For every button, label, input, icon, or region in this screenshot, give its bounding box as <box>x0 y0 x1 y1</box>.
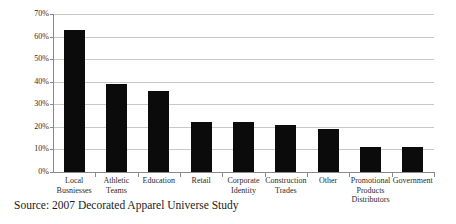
x-axis-line <box>53 172 435 173</box>
x-category-label: Government <box>392 176 434 186</box>
x-category-label: PromotionalProductsDistributors <box>349 176 391 205</box>
x-label-line: Construction <box>265 176 307 186</box>
x-category-label: AthleticTeams <box>95 176 137 195</box>
bar <box>64 30 85 172</box>
x-label-line: Education <box>138 176 180 186</box>
x-tick-mark <box>434 173 435 177</box>
bar-chart-figure: 0%10%20%30%40%50%60%70% LocalBusniessesA… <box>0 0 456 224</box>
x-tick-mark <box>307 173 308 177</box>
x-label-line: Retail <box>180 176 222 186</box>
y-tick-label: 50% <box>8 55 49 63</box>
x-category-label: LocalBusniesses <box>53 176 95 195</box>
x-label-line: Teams <box>95 186 137 196</box>
y-tick-label: 60% <box>8 33 49 41</box>
x-label-line: Trades <box>265 186 307 196</box>
y-tick-label: 30% <box>8 100 49 108</box>
y-tick-label: 0% <box>8 168 49 176</box>
x-category-label: Education <box>138 176 180 186</box>
y-tick-label: 20% <box>8 123 49 131</box>
y-tick-label: 40% <box>8 78 49 86</box>
x-category-label: CorporateIdentity <box>222 176 264 195</box>
x-label-line: Busniesses <box>53 186 95 196</box>
bar <box>148 91 169 172</box>
x-label-line: Government <box>392 176 434 186</box>
x-label-line: Corporate <box>222 176 264 186</box>
x-tick-mark <box>180 173 181 177</box>
bar <box>360 147 381 172</box>
x-label-line: Local <box>53 176 95 186</box>
x-category-label: Other <box>307 176 349 186</box>
x-tick-mark <box>95 173 96 177</box>
x-label-line: Products <box>349 186 391 196</box>
x-category-label: ConstructionTrades <box>265 176 307 195</box>
x-label-line: Identity <box>222 186 264 196</box>
x-label-line: Distributors <box>349 195 391 205</box>
x-label-line: Athletic <box>95 176 137 186</box>
bar <box>233 122 254 172</box>
y-tick-label: 70% <box>8 10 49 18</box>
bar <box>191 122 212 172</box>
x-category-label: Retail <box>180 176 222 186</box>
x-tick-mark <box>265 173 266 177</box>
x-label-line: Promotional <box>349 176 391 186</box>
bar <box>106 84 127 172</box>
bar <box>402 147 423 172</box>
bar <box>318 129 339 172</box>
x-label-line: Other <box>307 176 349 186</box>
x-tick-mark <box>349 173 350 177</box>
x-tick-mark <box>138 173 139 177</box>
x-tick-mark <box>392 173 393 177</box>
y-tick-label: 10% <box>8 145 49 153</box>
bar <box>275 125 296 172</box>
bar-series <box>53 14 434 172</box>
source-caption: Source: 2007 Decorated Apparel Universe … <box>14 199 239 212</box>
x-tick-mark <box>222 173 223 177</box>
